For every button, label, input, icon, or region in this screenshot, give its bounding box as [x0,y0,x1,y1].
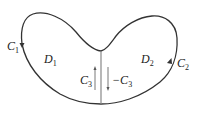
c3-arrow-icon [94,66,97,70]
label-c1: C1 [7,39,19,55]
label-d1: D1 [43,52,57,68]
region-diagram: C1 D1 C3 −C3 D2 C2 [0,0,201,115]
label-c3: C3 [80,73,92,89]
label-neg-c3: −C3 [112,73,132,89]
c2-arrow-icon [167,58,172,64]
c1-arrow-icon [20,43,25,48]
label-c2: C2 [177,56,189,72]
neg-c3-arrow-icon [107,87,110,91]
label-d2: D2 [140,52,154,68]
